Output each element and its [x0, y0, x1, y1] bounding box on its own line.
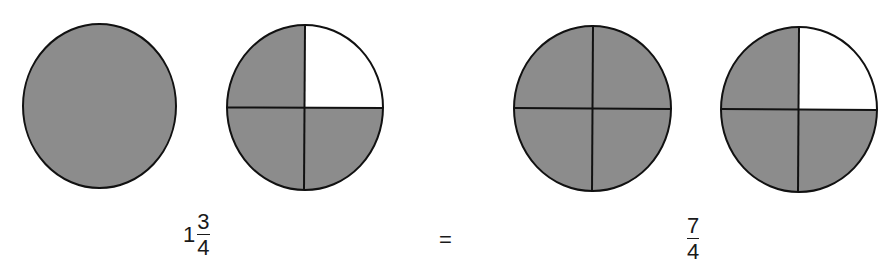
circle-whole-shaded — [23, 24, 176, 188]
circle-three-quarters-shaded-b — [721, 27, 877, 192]
circle-three-quarters-shaded — [227, 25, 383, 190]
fraction-denominator: 4 — [197, 237, 209, 259]
improper-fraction-body: 7 4 — [687, 215, 699, 263]
fraction-numerator: 7 — [687, 215, 699, 237]
fraction-denominator: 4 — [687, 241, 699, 263]
equals-sign: = — [439, 229, 452, 251]
mixed-number-whole: 1 — [183, 224, 195, 246]
circle-four-quarters-shaded — [514, 26, 671, 191]
mixed-number: 1 3 4 — [183, 211, 210, 259]
improper-fraction: 7 4 — [687, 215, 699, 263]
fraction-numerator: 3 — [197, 211, 209, 233]
mixed-number-fraction: 3 4 — [197, 211, 209, 259]
